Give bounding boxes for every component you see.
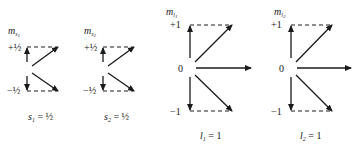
spin-1-caption: s1 = ½ bbox=[28, 111, 54, 123]
spin-2-down-vector-arrow bbox=[108, 73, 134, 91]
orbital-2-down-vector-arrow bbox=[296, 75, 332, 111]
spin-2-level-down: −½ bbox=[83, 85, 97, 96]
spin-2-caption: s2 = ½ bbox=[104, 111, 130, 123]
angular-momentum-vector-diagram: ms1 +½ −½ s1 = ½ ms2 +½ −½ s2 = ½ ml1 +1… bbox=[0, 0, 358, 150]
spin-1-level-up: +½ bbox=[8, 42, 22, 53]
orbital-1-level-minus: −1 bbox=[170, 106, 181, 117]
orbital-1-axis-label: ml1 bbox=[166, 6, 177, 19]
orbital-1-up-vector-arrow bbox=[195, 25, 232, 62]
spin-1-diagram: ms1 +½ −½ s1 = ½ bbox=[7, 25, 58, 123]
orbital-2-level-zero: 0 bbox=[279, 63, 284, 74]
orbital-1-down-vector-arrow bbox=[195, 75, 232, 111]
spin-2-diagram: ms2 +½ −½ s2 = ½ bbox=[83, 25, 134, 123]
orbital-2-up-vector-arrow bbox=[296, 25, 332, 62]
orbital-2-diagram: ml2 +1 0 −1 l2 = 1 bbox=[271, 6, 351, 142]
orbital-1-caption: l1 = 1 bbox=[200, 130, 221, 142]
orbital-1-diagram: ml1 +1 0 −1 l1 = 1 bbox=[166, 6, 251, 142]
spin-1-up-vector-arrow bbox=[32, 47, 58, 66]
orbital-2-level-plus: +1 bbox=[271, 19, 282, 30]
orbital-1-level-zero: 0 bbox=[178, 63, 183, 74]
spin-1-down-vector-arrow bbox=[32, 73, 58, 91]
spin-1-axis-label: ms1 bbox=[8, 25, 20, 38]
orbital-1-level-plus: +1 bbox=[170, 19, 181, 30]
orbital-2-caption: l2 = 1 bbox=[300, 130, 321, 142]
spin-1-level-down: −½ bbox=[7, 85, 21, 96]
orbital-2-level-minus: −1 bbox=[271, 106, 282, 117]
spin-2-up-vector-arrow bbox=[108, 47, 134, 66]
spin-2-level-up: +½ bbox=[84, 42, 98, 53]
spin-2-axis-label: ms2 bbox=[84, 25, 97, 38]
orbital-2-axis-label: ml2 bbox=[274, 6, 286, 19]
